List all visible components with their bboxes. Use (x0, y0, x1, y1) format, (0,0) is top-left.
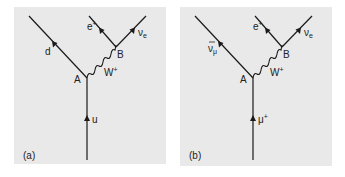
boson-charge: + (113, 66, 117, 73)
panel-b-caption: (b) (189, 150, 201, 161)
outgoing-particle-label: d (45, 46, 51, 57)
neutrino-flavor: e (309, 32, 313, 39)
antineutrino-flavor: μ (213, 48, 217, 56)
panel-a: A B u d W+ e+ νe (a) (14, 7, 166, 164)
positron-charge: + (259, 20, 263, 27)
neutrino-flavor: e (143, 32, 147, 39)
panel-b: A B μ+ νμ W+ e+ νe (b) (180, 7, 332, 166)
incoming-particle-label: u (92, 114, 98, 125)
vertex-b-label: B (117, 49, 124, 60)
feynman-diagram-figure: A B u d W+ e+ νe (a) A B μ+ νμ W+ e+ νe … (0, 0, 345, 177)
vertex-b-label: B (283, 49, 290, 60)
positron-charge: + (93, 20, 97, 27)
vertex-a-label: A (240, 74, 247, 85)
muon-charge: + (264, 113, 268, 120)
panel-a-caption: (a) (23, 150, 35, 161)
boson-charge: + (279, 66, 283, 73)
vertex-a-label: A (74, 74, 81, 85)
